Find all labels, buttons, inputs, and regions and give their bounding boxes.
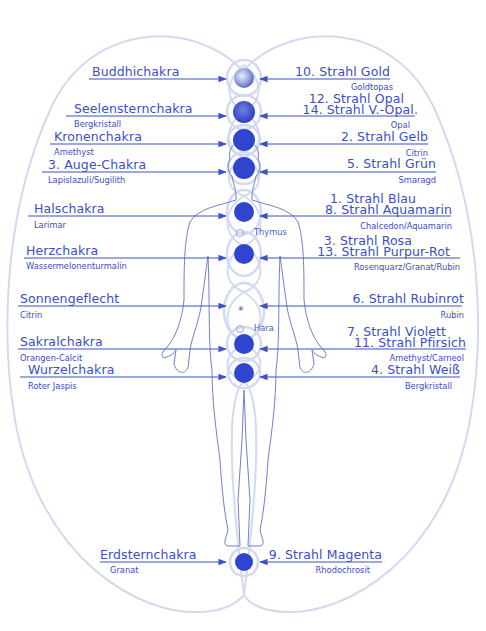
- chakra-label-hals: Halschakra: [34, 203, 105, 216]
- chakra-label-sakral: Sakralchakra: [20, 336, 103, 349]
- stone-label-kronen: Amethyst: [54, 148, 94, 156]
- chakra-label-kronen: Kronenchakra: [54, 131, 142, 144]
- ray-label-4: 4. Strahl Weiß: [371, 364, 460, 377]
- stone-label-seelenstern: Bergkristall: [74, 120, 121, 128]
- ray-label-10: 10. Strahl Gold: [295, 66, 390, 79]
- stone-label-third-eye: Lapislazuli/Sugilith: [48, 176, 125, 184]
- stone-label-wurzel: Roter Jaspis: [28, 382, 77, 390]
- stone-label-rubin: Rubin: [441, 311, 464, 319]
- stone-label-rosenquarz: Rosenquarz/Granat/Rubin: [354, 263, 460, 271]
- stone-label-smaragd: Smaragd: [399, 176, 436, 184]
- chakra-label-wurzel: Wurzelchakra: [28, 364, 114, 377]
- chakra-diagram: * Thymus Hara Buddhichakra Seelensternch…: [0, 0, 486, 631]
- chakra-label-seelenstern: Seelensternchakra: [74, 103, 193, 116]
- chakra-label-buddhi: Buddhichakra: [92, 66, 179, 79]
- stone-label-chalcedon: Chalcedon/Aquamarin: [360, 222, 452, 230]
- right-arrows: [260, 79, 466, 562]
- stone-label-rhodochrosit: Rhodochrosit: [316, 566, 370, 574]
- star-icon: *: [238, 305, 244, 316]
- chakra-label-herz: Herzchakra: [26, 245, 98, 258]
- ray-label-6: 6. Strahl Rubinrot: [353, 293, 465, 306]
- stone-label-sonnengeflecht: Citrin: [20, 311, 42, 319]
- hara-label: Hara: [254, 324, 274, 332]
- ray-label-14: 14. Strahl V.-Opal.: [303, 104, 418, 117]
- stone-label-hals: Larimar: [34, 221, 66, 229]
- ray-label-8: 8. Strahl Aquamarin: [325, 204, 452, 217]
- chakra-label-third-eye: 3. Auge-Chakra: [48, 159, 146, 172]
- stone-label-herz: Wassermelonenturmalin: [26, 262, 127, 270]
- chakra-spheres: [233, 68, 255, 571]
- ray-label-9: 9. Strahl Magenta: [269, 549, 382, 562]
- chakra-label-erdstern: Erdsternchakra: [100, 549, 197, 562]
- stone-label-bergkristall-right: Bergkristall: [405, 382, 452, 390]
- ray-label-5: 5. Strahl Grün: [347, 158, 436, 171]
- ray-label-2: 2. Strahl Gelb: [341, 131, 428, 144]
- thymus-label: Thymus: [254, 228, 287, 236]
- ray-label-13: 13. Strahl Purpur-Rot: [317, 246, 450, 259]
- stone-label-erdstern: Granat: [110, 566, 139, 574]
- left-arrows: [18, 79, 226, 562]
- chakra-label-sonnengeflecht: Sonnengeflecht: [20, 293, 119, 306]
- ray-label-11: 11. Strahl Pfirsich: [354, 337, 466, 350]
